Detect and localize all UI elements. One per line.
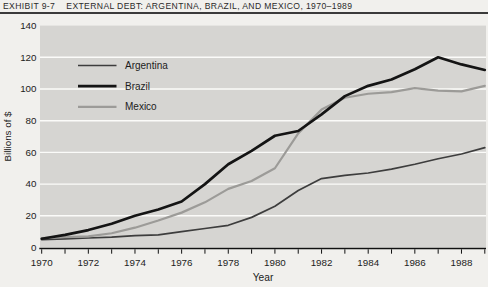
y-tick-label: 140 xyxy=(20,20,37,31)
x-axis-title: Year xyxy=(253,272,274,283)
y-tick-label: 100 xyxy=(20,83,37,94)
x-tick-label: 1976 xyxy=(171,257,193,268)
legend-label-mexico: Mexico xyxy=(125,101,157,112)
y-tick-label: 20 xyxy=(26,210,37,221)
x-tick-label: 1972 xyxy=(77,257,99,268)
legend-label-brazil: Brazil xyxy=(125,81,150,92)
x-tick-label: 1982 xyxy=(311,257,333,268)
x-tick-label: 1984 xyxy=(357,257,379,268)
legend-label-argentina: Argentina xyxy=(125,60,168,71)
y-tick-label: 80 xyxy=(26,115,37,126)
debt-line-chart: 0204060801001201401970197219741976197819… xyxy=(0,0,488,287)
x-tick-label: 1980 xyxy=(264,257,286,268)
x-tick-label: 1988 xyxy=(451,257,473,268)
y-tick-label: 60 xyxy=(26,147,37,158)
y-tick-label: 0 xyxy=(31,242,37,253)
y-axis-title: Billions of $ xyxy=(2,111,13,162)
plot-area xyxy=(40,26,486,248)
x-tick-label: 1978 xyxy=(217,257,239,268)
y-tick-label: 40 xyxy=(26,178,37,189)
y-tick-label: 120 xyxy=(20,52,37,63)
x-tick-label: 1974 xyxy=(124,257,146,268)
x-tick-label: 1970 xyxy=(31,257,53,268)
chart-canvas: 0204060801001201401970197219741976197819… xyxy=(0,0,488,287)
exhibit-figure: EXHIBIT 9-7EXTERNAL DEBT: ARGENTINA, BRA… xyxy=(0,0,488,287)
x-tick-label: 1986 xyxy=(404,257,426,268)
